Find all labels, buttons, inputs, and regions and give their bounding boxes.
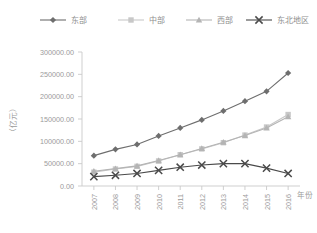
chart-canvas: 东部中部西部东北地区 （亿元） 0.0050000.00100000.00150… — [0, 0, 317, 233]
y-tick-label: 250000.00 — [40, 70, 74, 79]
data-point-x-marker — [285, 170, 292, 177]
legend-label: 西部 — [217, 15, 233, 25]
data-point-diamond-marker — [156, 133, 162, 139]
y-tick-label: 100000.00 — [40, 137, 74, 146]
x-axis-title: 年份 — [297, 190, 313, 200]
series-3 — [91, 114, 292, 174]
data-point-diamond-marker — [199, 117, 205, 123]
y-tick-label: 300000.00 — [40, 48, 74, 57]
line-chart: 东部中部西部东北地区 （亿元） 0.0050000.00100000.00150… — [0, 0, 317, 233]
legend-label: 东北地区 — [277, 15, 309, 25]
data-point-diamond-marker — [112, 146, 118, 152]
x-tick-label: 2012 — [198, 194, 207, 210]
x-tick-label: 2013 — [219, 194, 228, 210]
data-point-diamond-marker — [50, 17, 56, 23]
x-tick-label: 2011 — [176, 194, 185, 209]
legend-label: 东部 — [71, 15, 87, 25]
y-tick-label: 50000.00 — [44, 159, 74, 168]
series-line — [94, 164, 288, 177]
x-tick-label: 2007 — [90, 194, 99, 210]
legend-item-3[interactable]: 西部 — [186, 15, 233, 25]
legend-item-1[interactable]: 东部 — [40, 15, 87, 25]
x-axis: 2007200820092010201120122013201420152016 — [90, 186, 293, 210]
chart-legend: 东部中部西部东北地区 — [40, 15, 309, 25]
legend-label: 中部 — [149, 15, 165, 25]
y-axis: 0.0050000.00100000.00150000.00200000.002… — [40, 48, 82, 191]
x-tick-label: 2010 — [155, 194, 164, 210]
series-line — [94, 117, 288, 171]
x-tick-label: 2016 — [284, 194, 293, 210]
y-tick-label: 200000.00 — [40, 92, 74, 101]
series-line — [94, 73, 288, 156]
data-point-diamond-marker — [177, 125, 183, 131]
series-line — [94, 115, 288, 173]
data-point-diamond-marker — [242, 98, 248, 104]
legend-item-4[interactable]: 东北地区 — [246, 15, 309, 25]
data-point-diamond-marker — [91, 153, 97, 159]
data-point-diamond-marker — [220, 108, 226, 114]
series-1 — [91, 70, 291, 159]
y-axis-title: （亿元） — [8, 104, 18, 136]
x-tick-label: 2009 — [133, 194, 142, 210]
series-4 — [90, 160, 291, 180]
data-point-diamond-marker — [134, 141, 140, 147]
y-tick-label: 150000.00 — [40, 115, 74, 124]
data-point-square-marker — [128, 17, 133, 22]
x-tick-label: 2014 — [241, 194, 250, 210]
chart-series-group — [90, 70, 291, 180]
x-tick-label: 2008 — [111, 194, 120, 210]
x-tick-label: 2015 — [263, 194, 272, 210]
y-tick-label: 0.00 — [60, 182, 74, 191]
legend-item-2[interactable]: 中部 — [118, 15, 165, 25]
series-2 — [91, 112, 291, 175]
